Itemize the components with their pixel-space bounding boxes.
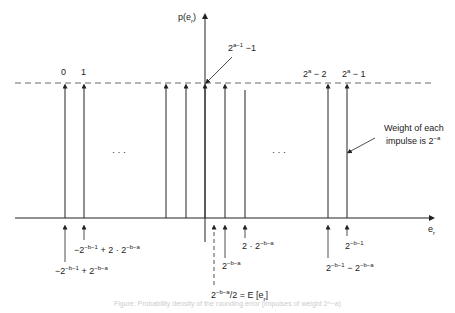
- label-index-0: 0: [61, 68, 66, 77]
- label-index-second-last: 2a − 2: [303, 68, 327, 79]
- label-center-index: 2a−1 −1: [228, 42, 256, 53]
- weight-pointer: [349, 138, 375, 152]
- ellipsis-left: · · ·: [112, 148, 126, 157]
- weight-note-line1: Weight of each: [384, 124, 444, 133]
- label-pos-first: −2−b−1 + 2−b−a: [55, 265, 108, 276]
- label-index-last: 2a − 1: [342, 68, 366, 79]
- weight-note-line2: impulse is 2−a: [386, 135, 440, 146]
- impulses: [65, 86, 347, 218]
- figure-caption: Figure: Probability density of the round…: [0, 300, 455, 307]
- bottom-arrows: [65, 227, 347, 285]
- label-pos-step1: 2−b−a: [222, 260, 241, 271]
- center-pointer: [207, 57, 232, 82]
- label-pos-last: 2−b−1: [345, 240, 364, 251]
- y-axis-label: p(er): [178, 13, 196, 24]
- label-index-1: 1: [81, 68, 86, 77]
- label-pos-step2: 2 · 2−b−a: [242, 240, 274, 251]
- x-axis-label: er: [428, 225, 435, 236]
- label-pos-second-last: 2−b−1 − 2−b−a: [326, 262, 374, 273]
- ellipsis-right: · · ·: [272, 148, 286, 157]
- label-pos-second: −2−b−1 + 2 · 2−b−a: [74, 244, 140, 255]
